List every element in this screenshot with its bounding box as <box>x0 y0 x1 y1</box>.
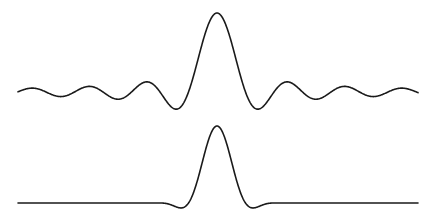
sinc-waveform <box>18 13 418 109</box>
windowed-sinc-waveform <box>18 126 418 208</box>
sinc-diagram <box>0 0 437 220</box>
